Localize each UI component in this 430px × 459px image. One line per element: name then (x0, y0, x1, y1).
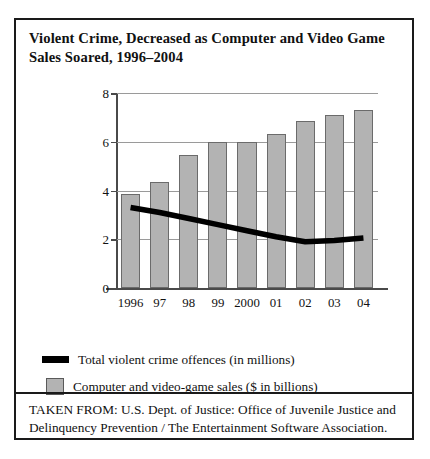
page-title: Violent Crime, Decreased as Computer and… (29, 29, 401, 66)
y-tick-label: 6 (103, 135, 110, 148)
x-tick-label: 04 (357, 297, 370, 310)
x-tick-label: 1996 (118, 297, 144, 310)
y-tick (111, 288, 117, 290)
x-tick-label: 03 (328, 297, 341, 310)
legend-item-violent-crime: Total violent crime offences (in million… (42, 350, 402, 368)
y-tick (111, 93, 117, 95)
y-tick-label: 8 (103, 87, 110, 100)
title-block: Violent Crime, Decreased as Computer and… (29, 29, 401, 66)
x-tick-label: 97 (153, 297, 166, 310)
chart-canvas: 1996979899200001020304 02468 (116, 93, 378, 288)
y-tick-label: 4 (103, 184, 110, 197)
chart-legend: Total violent crime offences (in million… (42, 350, 402, 404)
x-tick-label: 99 (211, 297, 224, 310)
chart-plot-area: 1996979899200001020304 02468 (90, 75, 386, 325)
line-swatch-icon (42, 356, 69, 363)
x-tick-label: 02 (299, 297, 312, 310)
y-tick (111, 239, 117, 241)
x-tick-label: 2000 (234, 297, 260, 310)
y-tick (111, 142, 117, 144)
y-tick (111, 191, 117, 193)
y-tick-label: 2 (103, 233, 110, 246)
figure-frame: Violent Crime, Decreased as Computer and… (14, 18, 414, 440)
x-tick-label: 01 (270, 297, 283, 310)
y-tick-label: 0 (103, 282, 110, 295)
gridline-baseline (116, 288, 378, 290)
x-tick-label: 98 (182, 297, 195, 310)
source-divider (16, 392, 412, 394)
x-tick-labels: 1996979899200001020304 (116, 93, 378, 288)
source-note: TAKEN FROM: U.S. Dept. of Justice: Offic… (29, 401, 403, 437)
legend-label: Total violent crime offences (in million… (78, 352, 295, 367)
